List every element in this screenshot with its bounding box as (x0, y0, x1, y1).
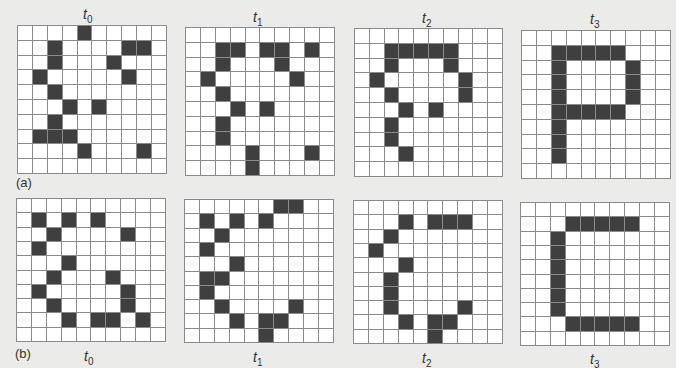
empty-cell (473, 273, 487, 286)
empty-cell (47, 285, 61, 298)
empty-cell (595, 246, 609, 259)
empty-cell (33, 85, 47, 99)
empty-cell (32, 228, 46, 241)
filled-cell (581, 217, 595, 230)
empty-cell (655, 217, 669, 230)
empty-cell (522, 75, 536, 89)
empty-cell (215, 243, 229, 256)
empty-cell (429, 147, 443, 161)
empty-cell (458, 273, 472, 286)
empty-cell (443, 230, 457, 243)
empty-cell (215, 314, 229, 327)
empty-cell (429, 162, 443, 176)
empty-cell (355, 29, 369, 43)
empty-cell (275, 117, 289, 131)
empty-cell (656, 46, 670, 60)
empty-cell (200, 329, 214, 342)
empty-cell (33, 144, 47, 158)
empty-cell (399, 230, 413, 243)
filled-cell (610, 317, 624, 330)
empty-cell (610, 246, 624, 259)
empty-cell (626, 164, 640, 178)
empty-cell (655, 317, 669, 330)
empty-cell (473, 59, 487, 73)
empty-cell (459, 162, 473, 176)
empty-cell (473, 44, 487, 58)
filled-cell (33, 130, 47, 144)
empty-cell (151, 328, 165, 341)
empty-cell (369, 215, 383, 228)
empty-cell (17, 285, 31, 298)
empty-cell (62, 199, 76, 212)
empty-cell (33, 26, 47, 40)
empty-cell (305, 87, 319, 101)
empty-cell (370, 103, 384, 117)
empty-cell (429, 59, 443, 73)
empty-cell (488, 103, 502, 117)
empty-cell (655, 275, 669, 288)
empty-cell (231, 72, 245, 86)
empty-cell (473, 315, 487, 328)
filled-cell (200, 243, 214, 256)
empty-cell (488, 315, 502, 328)
empty-cell (656, 31, 670, 45)
empty-cell (231, 146, 245, 160)
empty-cell (521, 317, 535, 330)
empty-cell (201, 102, 215, 116)
empty-cell (625, 332, 639, 345)
empty-cell (32, 271, 46, 284)
empty-cell (152, 85, 166, 99)
empty-cell (304, 243, 318, 256)
empty-cell (216, 146, 230, 160)
empty-cell (107, 130, 121, 144)
filled-cell (399, 215, 413, 228)
empty-cell (429, 73, 443, 87)
empty-cell (121, 256, 135, 269)
filled-cell (106, 313, 120, 326)
empty-cell (246, 132, 260, 146)
empty-cell (260, 87, 274, 101)
empty-cell (107, 100, 121, 114)
empty-cell (385, 73, 399, 87)
empty-cell (444, 118, 458, 132)
empty-cell (136, 271, 150, 284)
filled-cell (216, 87, 230, 101)
empty-cell (290, 146, 304, 160)
filled-cell (459, 73, 473, 87)
empty-cell (246, 43, 260, 57)
empty-cell (305, 117, 319, 131)
empty-cell (122, 159, 136, 173)
empty-cell (106, 228, 120, 241)
empty-cell (640, 317, 654, 330)
empty-cell (473, 330, 487, 343)
empty-cell (551, 332, 565, 345)
empty-cell (215, 329, 229, 342)
empty-cell (488, 244, 502, 257)
empty-cell (370, 29, 384, 43)
figure-panel: t0 t1 t2 t3 (a) (b) t0 t1 t2 t3 (0, 0, 676, 368)
empty-cell (488, 258, 502, 271)
empty-cell (121, 313, 135, 326)
filled-cell (626, 90, 640, 104)
empty-cell (259, 300, 273, 313)
empty-cell (92, 41, 106, 55)
empty-cell (399, 201, 413, 214)
filled-cell (384, 230, 398, 243)
empty-cell (274, 286, 288, 299)
empty-cell (107, 41, 121, 55)
empty-cell (355, 133, 369, 147)
empty-cell (355, 147, 369, 161)
empty-cell (610, 289, 624, 302)
empty-cell (77, 228, 91, 241)
empty-cell (320, 43, 334, 57)
empty-cell (18, 41, 32, 55)
filled-cell (91, 313, 105, 326)
filled-cell (385, 44, 399, 58)
empty-cell (151, 242, 165, 255)
empty-cell (473, 118, 487, 132)
empty-cell (581, 332, 595, 345)
empty-cell (596, 90, 610, 104)
empty-cell (47, 256, 61, 269)
filled-cell (78, 144, 92, 158)
empty-cell (185, 229, 199, 242)
